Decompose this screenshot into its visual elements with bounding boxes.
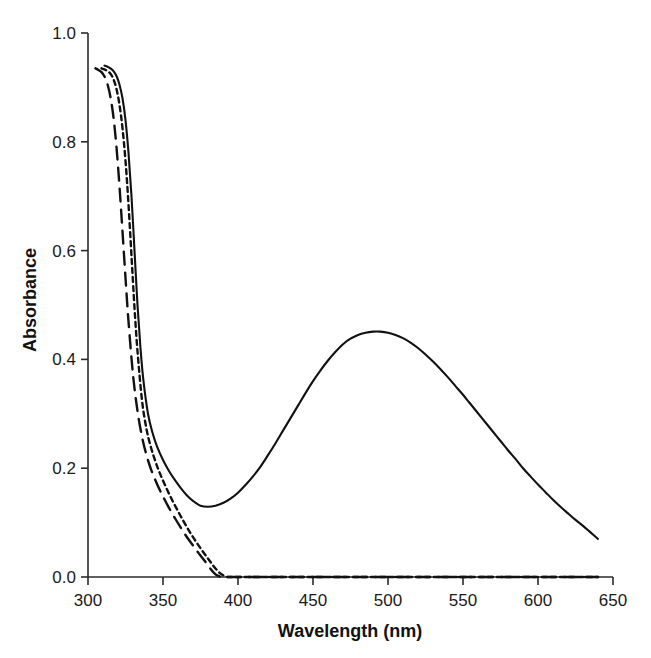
y-tick-label: 1.0 — [52, 24, 76, 43]
series-short-dash-curve — [102, 68, 599, 577]
x-tick-label: 400 — [224, 591, 252, 610]
plot-canvas: 0.00.20.40.60.81.0 300350400450500550600… — [0, 0, 651, 658]
x-axis-ticks: 300350400450500550600650 — [74, 577, 627, 610]
y-tick-label: 0.4 — [52, 350, 76, 369]
x-tick-label: 500 — [374, 591, 402, 610]
y-tick-label: 0.0 — [52, 568, 76, 587]
x-axis-title: Wavelength (nm) — [278, 621, 422, 641]
absorbance-spectrum-chart: 0.00.20.40.60.81.0 300350400450500550600… — [0, 0, 651, 658]
y-tick-label: 0.6 — [52, 242, 76, 261]
y-tick-label: 0.2 — [52, 459, 76, 478]
y-axis-ticks: 0.00.20.40.60.81.0 — [52, 24, 88, 587]
x-tick-label: 600 — [524, 591, 552, 610]
x-tick-label: 650 — [599, 591, 627, 610]
x-tick-label: 350 — [149, 591, 177, 610]
series-long-dash-curve — [96, 68, 599, 577]
axes-group — [88, 33, 613, 577]
y-axis-title: Absorbance — [20, 248, 40, 352]
x-tick-label: 550 — [449, 591, 477, 610]
x-tick-label: 300 — [74, 591, 102, 610]
x-tick-label: 450 — [299, 591, 327, 610]
series-group — [96, 66, 599, 577]
y-tick-label: 0.8 — [52, 133, 76, 152]
series-solid-curve — [105, 66, 599, 539]
